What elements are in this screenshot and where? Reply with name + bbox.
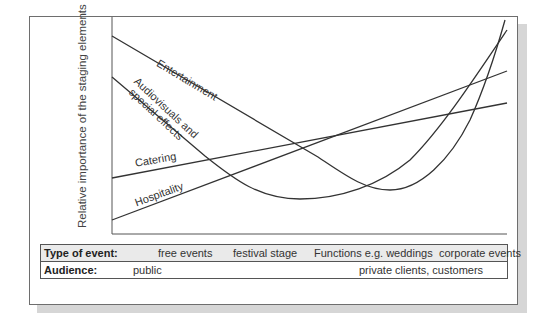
audience-header: Audience: [44, 262, 97, 278]
type-of-event-row: Type of event: free events festival stag… [41, 245, 507, 262]
audience-row: Audience: public private clients, custom… [41, 262, 507, 278]
event-free-events: free events [158, 245, 212, 261]
event-festival-stage: festival stage [233, 245, 297, 261]
event-table: Type of event: free events festival stag… [40, 244, 508, 279]
hospitality-curve [112, 71, 507, 220]
event-functions: Functions e.g. weddings [314, 245, 433, 261]
y-axis-label: Relative importance of the staging eleme… [76, 4, 88, 228]
audience-public: public [133, 262, 162, 278]
event-corporate: corporate events [439, 245, 521, 261]
audience-private: private clients, customers [359, 262, 483, 278]
type-of-event-header: Type of event: [44, 245, 118, 261]
